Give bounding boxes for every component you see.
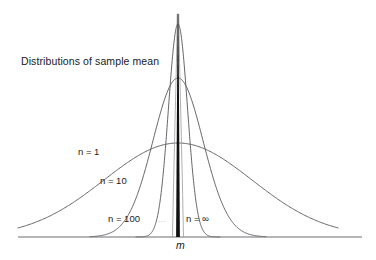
curve-label-n-infinity: n = ∞ [186, 214, 209, 224]
curve-label-n-1: n = 1 [78, 147, 99, 157]
chart-title: Distributions of sample mean [21, 56, 159, 67]
ellipsis-marker: ... [158, 216, 166, 224]
curve-label-n-100: n = 100 [108, 214, 140, 224]
distribution-figure: Distributions of sample mean n = 1 n = 1… [0, 0, 376, 260]
curve-label-n-10: n = 10 [100, 176, 127, 186]
x-axis-label-mean: m [176, 240, 185, 251]
infinite-n-spike [173, 14, 184, 237]
